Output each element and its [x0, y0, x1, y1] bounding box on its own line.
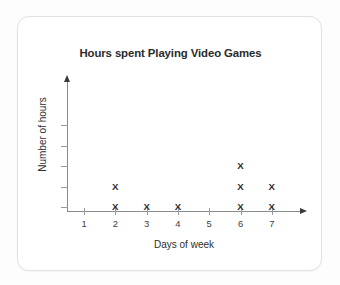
x-axis-tick [84, 208, 85, 215]
x-axis-tick [209, 208, 210, 215]
data-point-marker: X [108, 201, 122, 213]
plot-area: 1234567 XXXXXXXXX Number of hours Days o… [18, 17, 323, 272]
x-axis-label: Days of week [67, 239, 301, 250]
data-point-marker: X [234, 160, 248, 172]
y-axis-tick [61, 166, 68, 167]
y-axis-arrow-icon [64, 75, 70, 82]
screenshot-root: Hours spent Playing Video Games 1234567 … [0, 0, 340, 285]
x-axis-tick-label: 5 [199, 218, 219, 229]
data-point-marker: X [265, 201, 279, 213]
x-axis-tick-label: 4 [168, 218, 188, 229]
y-axis-tick [61, 187, 68, 188]
y-axis-label: Number of hours [37, 70, 48, 200]
data-point-marker: X [265, 181, 279, 193]
data-point-marker: X [108, 181, 122, 193]
x-axis-arrow-icon [300, 208, 307, 214]
x-axis-tick-label: 7 [262, 218, 282, 229]
x-axis-tick-label: 3 [137, 218, 157, 229]
x-axis-tick-label: 6 [231, 218, 251, 229]
data-point-marker: X [140, 201, 154, 213]
y-axis-tick [61, 125, 68, 126]
data-point-marker: X [234, 181, 248, 193]
x-axis-tick-label: 2 [105, 218, 125, 229]
y-axis-line [67, 82, 68, 212]
y-axis-tick [61, 146, 68, 147]
x-axis-tick-label: 1 [74, 218, 94, 229]
y-axis-tick [61, 207, 68, 208]
chart-card: Hours spent Playing Video Games 1234567 … [17, 16, 322, 271]
data-point-marker: X [234, 201, 248, 213]
data-point-marker: X [171, 201, 185, 213]
